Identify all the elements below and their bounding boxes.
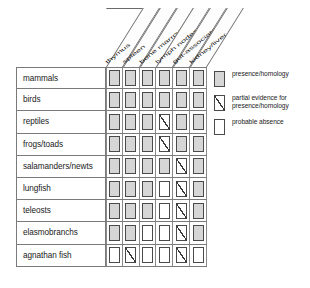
state-box-present (193, 203, 204, 219)
table-row: salamanders/newts (16, 156, 207, 178)
state-box-present (142, 70, 153, 86)
row-label-reptiles: reptiles (16, 111, 106, 132)
row-cells (106, 89, 207, 110)
matrix-table: mammalsbirdsreptilesfrogs/toadssalamande… (16, 67, 207, 272)
cell-mammals-gut_associated (173, 68, 190, 88)
cell-reptiles-lymph_nodes (156, 111, 173, 132)
state-box-present (125, 158, 136, 174)
cell-salamanders-newts-lymph_nodes (156, 156, 173, 177)
cell-salamanders-newts-bone_marrow (140, 156, 157, 177)
row-cells (106, 156, 207, 177)
row-cells (106, 222, 207, 243)
cell-lungfish-lymph_nodes (156, 178, 173, 199)
cell-reptiles-thymus (106, 111, 123, 132)
legend-label: presence/homology (232, 70, 289, 78)
cell-mammals-kidney_liver (190, 68, 207, 88)
state-box-present (176, 136, 187, 152)
cell-mammals-bone_marrow (140, 68, 157, 88)
cell-teleosts-spleen (123, 200, 140, 221)
cell-mammals-thymus (106, 68, 123, 88)
state-box-partial (159, 136, 170, 152)
cell-salamanders-newts-kidney_liver (190, 156, 207, 177)
row-label-teleosts: teleosts (16, 200, 106, 221)
row-label-agnathan-fish: agnathan fish (16, 245, 106, 266)
table-row: birds (16, 89, 207, 111)
legend-item-present: presence/homology (214, 70, 308, 87)
state-box-absent (159, 225, 170, 241)
cell-reptiles-bone_marrow (140, 111, 157, 132)
state-box-present (193, 181, 204, 197)
table-row: agnathan fish (16, 245, 207, 267)
cell-agnathan-fish-bone_marrow (140, 245, 157, 266)
cell-agnathan-fish-thymus (106, 245, 123, 266)
state-box-present (125, 225, 136, 241)
cell-lungfish-bone_marrow (140, 178, 157, 199)
state-box-present (142, 136, 153, 152)
cell-salamanders-newts-spleen (123, 156, 140, 177)
state-box-present (109, 136, 120, 152)
cell-elasmobranchs-lymph_nodes (156, 222, 173, 243)
row-cells (106, 178, 207, 199)
state-box-partial (176, 225, 187, 241)
state-box-present (109, 158, 120, 174)
cell-elasmobranchs-thymus (106, 222, 123, 243)
state-box-absent (142, 225, 153, 241)
cell-teleosts-bone_marrow (140, 200, 157, 221)
legend-item-partial: partial evidence for presence/homology (214, 94, 308, 111)
state-box-present (193, 225, 204, 241)
row-label-birds: birds (16, 89, 106, 110)
cell-reptiles-kidney_liver (190, 111, 207, 132)
legend-swatch-partial (214, 95, 225, 111)
state-box-present (142, 92, 153, 108)
cell-frogs-toads-lymph_nodes (156, 134, 173, 155)
state-box-present (109, 225, 120, 241)
state-box-partial (159, 114, 170, 130)
table-row: teleosts (16, 200, 207, 222)
row-label-frogs-toads: frogs/toads (16, 134, 106, 155)
state-box-present (159, 92, 170, 108)
legend-item-absent: probable absence (214, 118, 308, 135)
state-box-present (159, 158, 170, 174)
cell-frogs-toads-thymus (106, 134, 123, 155)
cell-salamanders-newts-gut_associated (173, 156, 190, 177)
row-label-elasmobranchs: elasmobranchs (16, 222, 106, 243)
state-box-present (125, 203, 136, 219)
state-box-present (125, 136, 136, 152)
legend-label: partial evidence for presence/homology (232, 94, 308, 110)
state-box-present (193, 70, 204, 86)
vertebrate-lymphoid-tissue-chart: thymusspleenbone marrowlymph nodesgut-as… (0, 0, 310, 288)
table-row: frogs/toads (16, 134, 207, 156)
row-label-lungfish: lungfish (16, 178, 106, 199)
state-box-partial (176, 203, 187, 219)
cell-teleosts-thymus (106, 200, 123, 221)
cell-frogs-toads-kidney_liver (190, 134, 207, 155)
state-box-partial (125, 247, 136, 263)
cell-elasmobranchs-kidney_liver (190, 222, 207, 243)
cell-teleosts-lymph_nodes (156, 200, 173, 221)
state-box-present (159, 70, 170, 86)
state-box-present (142, 158, 153, 174)
cell-reptiles-gut_associated (173, 111, 190, 132)
cell-frogs-toads-gut_associated (173, 134, 190, 155)
cell-mammals-lymph_nodes (156, 68, 173, 88)
row-cells (106, 134, 207, 155)
cell-agnathan-fish-spleen (123, 245, 140, 266)
cell-agnathan-fish-gut_associated (173, 245, 190, 266)
row-cells (106, 200, 207, 221)
state-box-present (109, 203, 120, 219)
legend-label: probable absence (232, 118, 284, 126)
cell-elasmobranchs-gut_associated (173, 222, 190, 243)
cell-agnathan-fish-kidney_liver (190, 245, 207, 266)
state-box-present (176, 114, 187, 130)
cell-birds-thymus (106, 89, 123, 110)
state-box-absent (159, 203, 170, 219)
cell-elasmobranchs-bone_marrow (140, 222, 157, 243)
state-box-present (125, 92, 136, 108)
state-box-absent (193, 247, 204, 263)
state-box-partial (176, 247, 187, 263)
state-box-partial (176, 181, 187, 197)
cell-agnathan-fish-lymph_nodes (156, 245, 173, 266)
cell-birds-kidney_liver (190, 89, 207, 110)
cell-lungfish-kidney_liver (190, 178, 207, 199)
row-cells (106, 245, 207, 266)
